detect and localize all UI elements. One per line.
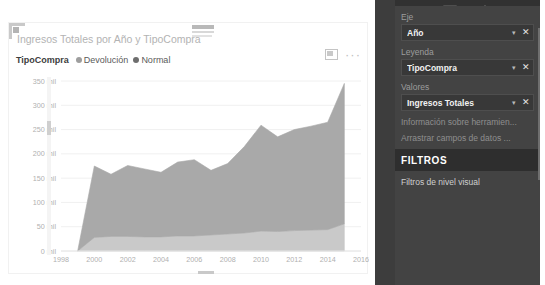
focus-mode-icon[interactable] bbox=[325, 49, 338, 60]
x-tick-label: 1998 bbox=[53, 255, 69, 264]
field-label-leyenda: Leyenda bbox=[395, 47, 540, 59]
legend-label-devolucion: Devolución bbox=[84, 55, 129, 65]
y-tick-label: 150 mil bbox=[33, 174, 57, 183]
filters-header[interactable]: FILTROS bbox=[395, 149, 540, 171]
panel-content: Eje Año ▾ ✕ Leyenda TipoCompra ▾ ✕ Valor… bbox=[395, 6, 540, 285]
y-tick-label: 250 mil bbox=[33, 125, 57, 134]
y-tick-label: 350 mil bbox=[33, 77, 57, 86]
drag-bar bbox=[192, 25, 214, 29]
chevron-down-icon[interactable]: ▾ bbox=[512, 29, 516, 37]
chart-legend: TipoCompra Devolución Normal bbox=[16, 55, 170, 65]
legend-swatch-normal bbox=[133, 57, 139, 63]
visual-title: Ingresos Totales por Año y TipoCompra bbox=[17, 33, 201, 45]
chevron-down-icon[interactable]: ▾ bbox=[512, 99, 516, 107]
x-tick-label: 2016 bbox=[353, 255, 369, 264]
visual-drag-handle[interactable] bbox=[192, 25, 214, 37]
x-tick-label: 2002 bbox=[120, 255, 136, 264]
x-tick-label: 2004 bbox=[153, 255, 169, 264]
y-tick-label: 100 mil bbox=[33, 198, 57, 207]
report-canvas: ··· Ingresos Totales por Año y TipoCompr… bbox=[0, 0, 375, 285]
x-tick-label: 2006 bbox=[186, 255, 202, 264]
drag-bar bbox=[192, 31, 214, 33]
visualizations-panel: Eje Año ▾ ✕ Leyenda TipoCompra ▾ ✕ Valor… bbox=[375, 0, 545, 285]
field-chip-valores-text: Ingresos Totales bbox=[407, 98, 512, 108]
field-label-eje: Eje bbox=[395, 12, 540, 24]
x-tick-label: 2012 bbox=[286, 255, 302, 264]
visual-level-filters-label[interactable]: Filtros de nivel visual bbox=[395, 171, 540, 187]
area-chart-visual[interactable]: ··· Ingresos Totales por Año y TipoCompr… bbox=[8, 22, 368, 274]
field-chip-eje[interactable]: Año ▾ ✕ bbox=[401, 24, 534, 41]
x-tick-label: 2008 bbox=[220, 255, 236, 264]
close-icon[interactable]: ✕ bbox=[521, 28, 530, 37]
close-icon[interactable]: ✕ bbox=[521, 98, 530, 107]
area-series bbox=[78, 83, 345, 251]
area-series-normal[interactable] bbox=[78, 83, 345, 251]
legend-title: TipoCompra bbox=[16, 55, 69, 65]
field-chip-eje-text: Año bbox=[407, 28, 512, 38]
legend-item-devolucion[interactable]: Devolución bbox=[76, 55, 129, 65]
panel-left-strip bbox=[375, 0, 395, 285]
y-axis-scrollbar[interactable] bbox=[47, 77, 51, 255]
area-chart-svg: 350 mil300 mil250 mil200 mil150 mil100 m… bbox=[9, 71, 369, 275]
filters-header-label: FILTROS bbox=[401, 155, 447, 166]
field-chip-valores[interactable]: Ingresos Totales ▾ ✕ bbox=[401, 94, 534, 111]
x-axis-labels: 1998200020022004200620082010201220142016 bbox=[53, 255, 369, 264]
field-label-valores: Valores bbox=[395, 82, 540, 94]
x-tick-label: 2014 bbox=[320, 255, 336, 264]
panel-right-edge bbox=[540, 0, 545, 285]
field-chip-leyenda-text: TipoCompra bbox=[407, 63, 512, 73]
x-axis-scrollbar[interactable] bbox=[198, 271, 214, 274]
visual-resize-handle[interactable] bbox=[9, 23, 25, 39]
legend-swatch-devolucion bbox=[76, 57, 82, 63]
drag-bar bbox=[192, 35, 212, 37]
legend-label-normal: Normal bbox=[141, 55, 170, 65]
drag-fields-row[interactable]: Arrastrar campos de datos ... bbox=[395, 133, 540, 143]
more-options-icon[interactable]: ··· bbox=[345, 51, 361, 59]
tooltip-field-row[interactable]: Información sobre herramien... bbox=[395, 117, 540, 127]
plot-area[interactable]: 350 mil300 mil250 mil200 mil150 mil100 m… bbox=[9, 71, 369, 275]
x-tick-label: 2000 bbox=[86, 255, 102, 264]
y-tick-label: 200 mil bbox=[33, 149, 57, 158]
close-icon[interactable]: ✕ bbox=[521, 63, 530, 72]
visual-header-icons: ··· bbox=[325, 49, 361, 60]
legend-item-normal[interactable]: Normal bbox=[133, 55, 170, 65]
x-tick-label: 2010 bbox=[253, 255, 269, 264]
y-axis-labels: 350 mil300 mil250 mil200 mil150 mil100 m… bbox=[33, 77, 57, 256]
field-chip-leyenda[interactable]: TipoCompra ▾ ✕ bbox=[401, 59, 534, 76]
y-tick-label: 300 mil bbox=[33, 101, 57, 110]
chevron-down-icon[interactable]: ▾ bbox=[512, 64, 516, 72]
